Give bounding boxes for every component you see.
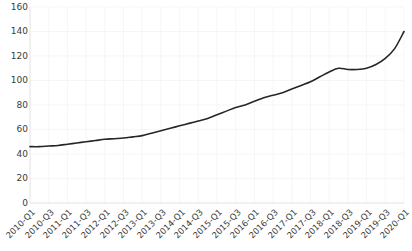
grid-lines — [30, 7, 404, 203]
y-tick-label: 140 — [2, 27, 28, 36]
chart-plot-area — [0, 0, 412, 251]
y-tick-label: 40 — [2, 150, 28, 159]
y-tick-label: 100 — [2, 76, 28, 85]
y-tick-label: 160 — [2, 3, 28, 12]
y-axis-tick-labels: 020406080100120140160 — [0, 0, 28, 251]
y-tick-label: 80 — [2, 101, 28, 110]
y-tick-label: 60 — [2, 125, 28, 134]
y-tick-label: 20 — [2, 174, 28, 183]
y-tick-label: 0 — [2, 199, 28, 208]
line-chart: 020406080100120140160 2010-Q12010-Q32011… — [0, 0, 412, 251]
y-tick-label: 120 — [2, 52, 28, 61]
